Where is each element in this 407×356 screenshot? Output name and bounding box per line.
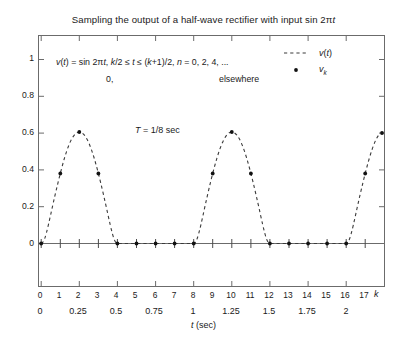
t-axis-ticks-bottom (41, 281, 346, 286)
k-tick-label-1: 1 (49, 290, 69, 300)
t-tick-label-1: 1 (176, 306, 210, 316)
y-axis-ticks-right (379, 60, 384, 244)
k-tick-label-8: 8 (183, 290, 203, 300)
k-tick-label-12: 12 (259, 290, 279, 300)
k-tick-label-17: 17 (354, 290, 374, 300)
chart-title: Sampling the output of a half-wave recti… (0, 14, 407, 25)
k-tick-label-7: 7 (164, 290, 184, 300)
t-axis-ticks-top (41, 36, 346, 41)
t-tick-label-0.75: 0.75 (137, 306, 171, 316)
k-tick-label-2: 2 (68, 290, 88, 300)
y-tick-label-0.2: 0.2 (8, 201, 34, 211)
k-tick-label-13: 13 (278, 290, 298, 300)
plot-area: v(t) = sin 2πt, k/2 ≤ t ≤ (k+1)/2, n = 0… (38, 35, 385, 287)
y-tick-label-0.6: 0.6 (8, 127, 34, 137)
t-tick-label-0.5: 0.5 (99, 306, 133, 316)
k-tick-label-9: 9 (202, 290, 222, 300)
k-tick-label-0: 0 (30, 290, 50, 300)
legend-label-vk: vk (319, 64, 327, 76)
t-tick-label-1.25: 1.25 (214, 306, 248, 316)
equation-zero-branch: 0, (106, 74, 113, 84)
t-tick-label-0: 0 (23, 306, 57, 316)
signal-curve (41, 132, 380, 244)
legend-item-vk: vk (279, 61, 359, 78)
legend-item-vt: v(t) (279, 44, 359, 61)
y-axis-ticks (39, 60, 44, 244)
dot-marker-icon (279, 66, 313, 74)
k-tick-label-11: 11 (240, 290, 260, 300)
equation-line-1: v(t) = sin 2πt, k/2 ≤ t ≤ (k+1)/2, n = 0… (56, 57, 229, 67)
y-tick-label-0.8: 0.8 (8, 90, 34, 100)
k-tick-label-6: 6 (145, 290, 165, 300)
k-tick-label-4: 4 (106, 290, 126, 300)
dashed-line-icon (279, 49, 313, 57)
figure-container: Sampling the output of a half-wave recti… (0, 0, 407, 356)
t-tick-label-1.5: 1.5 (252, 306, 286, 316)
k-tick-label-14: 14 (297, 290, 317, 300)
legend: v(t) vk (279, 44, 359, 78)
y-tick-label-0.4: 0.4 (8, 164, 34, 174)
k-axis-label: k (374, 289, 379, 299)
y-tick-label-1: 1 (8, 53, 34, 63)
sample-points (39, 130, 384, 245)
y-tick-label-0: 0 (8, 238, 34, 248)
k-tick-label-15: 15 (316, 290, 336, 300)
t-tick-label-0.25: 0.25 (61, 306, 95, 316)
k-tick-label-10: 10 (221, 290, 241, 300)
legend-label-vt: v(t) (319, 48, 332, 58)
t-axis-label: t (sec) (0, 320, 407, 330)
period-annotation: T = 1/8 sec (135, 125, 180, 135)
t-tick-label-2: 2 (329, 306, 363, 316)
k-tick-label-5: 5 (125, 290, 145, 300)
equation-elsewhere-branch: elsewhere (219, 74, 259, 84)
t-tick-label-1.75: 1.75 (290, 306, 324, 316)
k-tick-label-16: 16 (335, 290, 355, 300)
k-tick-label-3: 3 (87, 290, 107, 300)
